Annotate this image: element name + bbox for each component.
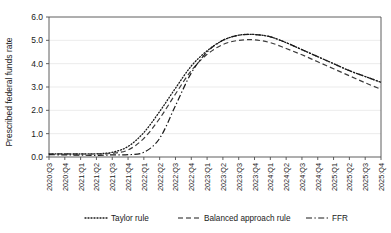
x-tick-label: 2022:Q1: [140, 163, 149, 191]
x-tick-label: 2025:Q4: [377, 163, 386, 191]
x-tick-label: 2022:Q2: [156, 163, 165, 191]
x-tick-label: 2021:Q3: [108, 163, 117, 191]
y-tick-label: 6.0: [31, 12, 43, 22]
x-tick-label: 2024:Q1: [266, 163, 275, 191]
x-tick-label: 2021:Q1: [77, 163, 86, 191]
x-tick-label: 2024:Q3: [298, 163, 307, 191]
y-tick-label: 0.0: [31, 152, 43, 162]
x-tick-label: 2023:Q2: [219, 163, 228, 191]
chart-figure: 0.01.02.03.04.05.06.0 2020:Q32020:Q42021…: [0, 0, 391, 233]
legend-label: FFR: [332, 214, 348, 223]
y-tick-label: 5.0: [31, 35, 43, 45]
legend-label: Taylor rule: [111, 214, 149, 223]
x-tick-label: 2025:Q1: [330, 163, 339, 191]
x-tick-label: 2024:Q2: [282, 163, 291, 191]
x-tick-label: 2022:Q4: [187, 163, 196, 191]
x-tick-label: 2025:Q3: [361, 163, 370, 191]
x-tick-label: 2021:Q2: [92, 163, 101, 191]
x-tick-label: 2024:Q4: [314, 163, 323, 191]
prescribed-federal-funds-rate-chart: 0.01.02.03.04.05.06.0 2020:Q32020:Q42021…: [0, 0, 391, 233]
x-tick-label: 2022:Q3: [171, 163, 180, 191]
x-tick-label: 2023:Q4: [251, 163, 260, 191]
x-tick-label: 2021:Q4: [124, 163, 133, 191]
x-tick-label: 2020:Q3: [45, 163, 54, 191]
chart-background: [0, 0, 391, 233]
x-tick-label: 2023:Q1: [203, 163, 212, 191]
x-tick-label: 2023:Q3: [235, 163, 244, 191]
y-tick-label: 2.0: [31, 105, 43, 115]
y-tick-label: 4.0: [31, 59, 43, 69]
y-tick-label: 1.0: [31, 129, 43, 139]
x-tick-label: 2025:Q2: [345, 163, 354, 191]
x-tick-label: 2020:Q4: [61, 163, 70, 191]
y-tick-label: 3.0: [31, 82, 43, 92]
y-axis-title: Prescribed federal funds rate: [4, 37, 14, 146]
legend-label: Balanced approach rule: [204, 214, 291, 223]
